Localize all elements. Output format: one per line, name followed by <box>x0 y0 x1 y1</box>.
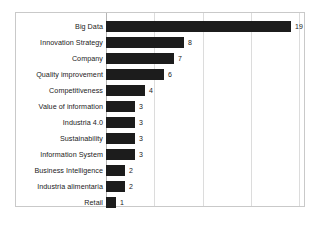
bar-innovation-strategy[interactable] <box>106 37 184 48</box>
value-label-company: 7 <box>178 54 182 63</box>
category-label-business-intelligence: Business Intelligence <box>0 166 103 175</box>
category-label-retail: Retail <box>0 198 103 207</box>
category-label-competitiveness: Competitiveness <box>0 86 103 95</box>
bar-industria-40[interactable] <box>106 117 135 128</box>
category-label-company: Company <box>0 54 103 63</box>
bar-wrap: 6 <box>106 69 304 80</box>
bar-row: Industria alimentaria 2 <box>16 179 304 194</box>
bar-wrap: 2 <box>106 181 304 192</box>
bar-wrap: 3 <box>106 101 304 112</box>
bar-business-intelligence[interactable] <box>106 165 125 176</box>
bar-company[interactable] <box>106 53 174 64</box>
bar-competitiveness[interactable] <box>106 85 145 96</box>
bar-row: Business Intelligence 2 <box>16 163 304 178</box>
category-label-industria-alimentaria: Industria alimentaria <box>0 182 103 191</box>
value-label-innovation-strategy: 8 <box>188 38 192 47</box>
category-label-industria-40: Industria 4.0 <box>0 118 103 127</box>
bar-row: Industria 4.0 3 <box>16 115 304 130</box>
bar-row: Company 7 <box>16 51 304 66</box>
bar-big-data[interactable] <box>106 21 291 32</box>
bar-row: Big Data 19 <box>16 19 304 34</box>
category-label-innovation-strategy: Innovation Strategy <box>0 38 103 47</box>
bar-wrap: 3 <box>106 149 304 160</box>
bar-wrap: 1 <box>106 197 304 208</box>
bar-wrap: 3 <box>106 117 304 128</box>
category-label-value-of-information: Value of information <box>0 102 103 111</box>
value-label-competitiveness: 4 <box>149 86 153 95</box>
value-label-industria-alimentaria: 2 <box>129 182 133 191</box>
bar-information-system[interactable] <box>106 149 135 160</box>
bar-industria-alimentaria[interactable] <box>106 181 125 192</box>
category-label-sustainability: Sustainability <box>0 134 103 143</box>
bar-wrap: 8 <box>106 37 304 48</box>
plot-frame: Big Data 19 Innovation Strategy 8 Compan… <box>15 12 305 207</box>
bar-row: Information System 3 <box>16 147 304 162</box>
bar-wrap: 7 <box>106 53 304 64</box>
bar-quality-improvement[interactable] <box>106 69 164 80</box>
bar-wrap: 4 <box>106 85 304 96</box>
category-label-big-data: Big Data <box>0 22 103 31</box>
bar-row: Competitiveness 4 <box>16 83 304 98</box>
bar-row: Value of information 3 <box>16 99 304 114</box>
bar-value-of-information[interactable] <box>106 101 135 112</box>
bar-row: Innovation Strategy 8 <box>16 35 304 50</box>
bar-wrap: 19 <box>106 21 304 32</box>
category-label-information-system: Information System <box>0 150 103 159</box>
category-label-quality-improvement: Quality improvement <box>0 70 103 79</box>
bar-row: Sustainability 3 <box>16 131 304 146</box>
value-label-big-data: 19 <box>295 22 303 31</box>
value-label-business-intelligence: 2 <box>129 166 133 175</box>
value-label-value-of-information: 3 <box>139 102 143 111</box>
bar-chart: Big Data 19 Innovation Strategy 8 Compan… <box>0 0 320 227</box>
value-label-sustainability: 3 <box>139 134 143 143</box>
value-label-industria-40: 3 <box>139 118 143 127</box>
bar-wrap: 2 <box>106 165 304 176</box>
bar-retail[interactable] <box>106 197 116 208</box>
value-label-quality-improvement: 6 <box>168 70 172 79</box>
bar-row: Retail 1 <box>16 195 304 210</box>
bar-wrap: 3 <box>106 133 304 144</box>
bar-sustainability[interactable] <box>106 133 135 144</box>
bar-row: Quality improvement 6 <box>16 67 304 82</box>
bar-rows: Big Data 19 Innovation Strategy 8 Compan… <box>16 13 304 206</box>
value-label-information-system: 3 <box>139 150 143 159</box>
value-label-retail: 1 <box>120 198 124 207</box>
